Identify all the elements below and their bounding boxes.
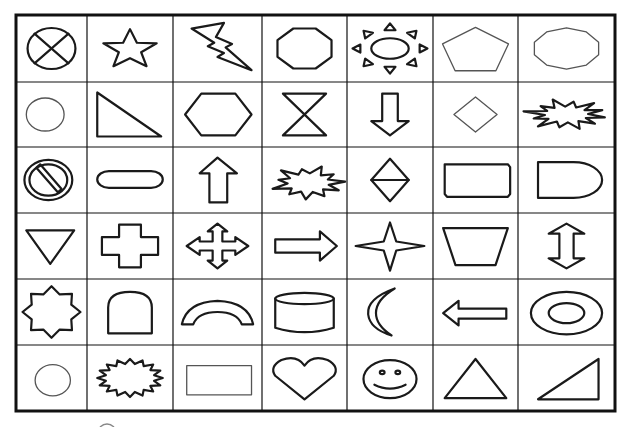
shapes-worksheet: Shapes worksheet Circle with XStarLightn… (0, 0, 629, 427)
partial-circle-icon (0, 0, 629, 427)
